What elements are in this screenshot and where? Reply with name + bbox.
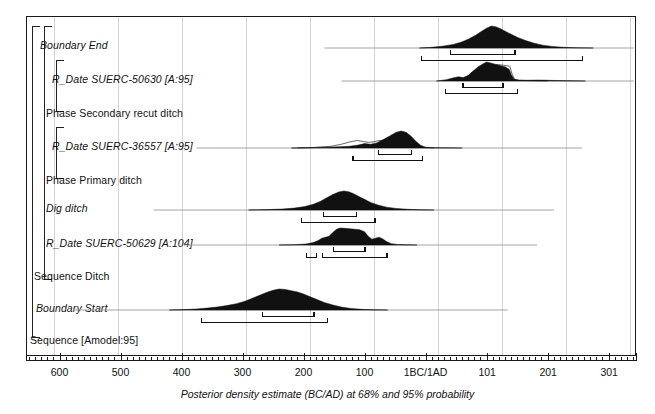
- axis-tick-label: 100: [356, 366, 374, 378]
- bracket-sequence-ditch: [44, 26, 45, 280]
- axis-tick-minor: [108, 357, 109, 361]
- axis-tick-minor: [456, 357, 457, 361]
- axis-tick-minor: [194, 357, 195, 361]
- axis-tick-label: 600: [51, 366, 69, 378]
- axis-tick-minor: [523, 357, 524, 361]
- axis-tick-label: 500: [112, 366, 130, 378]
- axis-tick-minor: [474, 357, 475, 361]
- row-label-sequence-amodel: Sequence [Amodel:95]: [30, 334, 138, 346]
- axis-tick-minor: [47, 357, 48, 361]
- axis-tick-minor: [188, 357, 189, 361]
- axis-tick-minor: [35, 357, 36, 361]
- axis-tick-major: [426, 353, 427, 361]
- axis-tick-minor: [627, 357, 628, 361]
- axis-tick-minor: [480, 357, 481, 361]
- axis-tick-minor: [438, 357, 439, 361]
- axis-tick-minor: [53, 357, 54, 361]
- axis-tick-minor: [90, 357, 91, 361]
- axis-tick-major: [60, 353, 61, 361]
- axis-tick-minor: [285, 357, 286, 361]
- axis-tick-minor: [413, 357, 414, 361]
- axis-tick-minor: [145, 357, 146, 361]
- axis-tick-major: [243, 353, 244, 361]
- axis-tick-minor: [615, 357, 616, 361]
- row-label-sequence-ditch: Sequence Ditch: [34, 270, 110, 282]
- range-bar: [301, 222, 376, 223]
- axis-tick-minor: [255, 357, 256, 361]
- axis-tick-minor: [212, 357, 213, 361]
- axis-tick-minor: [66, 357, 67, 361]
- axis-tick-minor: [389, 357, 390, 361]
- range-bar: [352, 160, 423, 161]
- row-label-r-date-suerc-36557: R_Date SUERC-36557 [A:95]: [52, 140, 193, 152]
- axis-tick-minor: [499, 357, 500, 361]
- axis-tick-minor: [334, 357, 335, 361]
- axis-tick-minor: [554, 357, 555, 361]
- axis-tick-minor: [163, 357, 164, 361]
- range-bar: [450, 54, 516, 55]
- axis-tick-minor: [395, 357, 396, 361]
- axis-tick-label: 301: [600, 366, 618, 378]
- axis-tick-minor: [291, 357, 292, 361]
- axis-tick-minor: [72, 357, 73, 361]
- axis-tick-minor: [352, 357, 353, 361]
- axis-tick-minor: [310, 357, 311, 361]
- axis-tick-minor: [432, 357, 433, 361]
- axis-tick-minor: [566, 357, 567, 361]
- axis-tick-minor: [157, 357, 158, 361]
- axis-tick-minor: [151, 357, 152, 361]
- axis-tick-minor: [41, 357, 42, 361]
- axis-tick-minor: [493, 357, 494, 361]
- axis-tick-label: 400: [173, 366, 191, 378]
- axis-tick-minor: [529, 357, 530, 361]
- axis-tick-minor: [328, 357, 329, 361]
- axis-tick-minor: [401, 357, 402, 361]
- axis-tick-minor: [383, 357, 384, 361]
- axis-tick-minor: [279, 357, 280, 361]
- row-label-phase-primary: Phase Primary ditch: [46, 174, 142, 186]
- axis-tick-major: [304, 353, 305, 361]
- axis-tick-major: [609, 353, 610, 361]
- axis-tick-minor: [114, 357, 115, 361]
- range-bar: [306, 257, 317, 258]
- oxcal-plot: Boundary End R_Date SUERC-50630 [A:95] P…: [0, 0, 655, 414]
- axis-tick-minor: [468, 357, 469, 361]
- axis-tick-minor: [267, 357, 268, 361]
- bracket-phase-secondary: [56, 60, 57, 112]
- plot-frame: [26, 16, 636, 356]
- axis-tick-minor: [261, 357, 262, 361]
- axis-tick-major: [487, 353, 488, 361]
- axis-tick-minor: [127, 357, 128, 361]
- axis-tick-minor: [578, 357, 579, 361]
- row-label-dig-ditch: Dig ditch: [46, 202, 88, 214]
- range-bar: [333, 251, 366, 252]
- axis-tick-minor: [102, 357, 103, 361]
- axis-tick-label: 200: [295, 366, 313, 378]
- axis-tick-minor: [230, 357, 231, 361]
- axis-tick-label: 300: [234, 366, 252, 378]
- axis-tick-minor: [462, 357, 463, 361]
- axis-tick-minor: [297, 357, 298, 361]
- range-bar: [322, 257, 388, 258]
- axis-tick-minor: [322, 357, 323, 361]
- axis-tick-major: [182, 353, 183, 361]
- axis-tick-minor: [358, 357, 359, 361]
- row-label-boundary-start: Boundary Start: [36, 302, 107, 314]
- axis-tick-label: 101: [478, 366, 496, 378]
- row-label-r-date-suerc-50629: R_Date SUERC-50629 [A:104]: [46, 237, 193, 249]
- axis-tick-minor: [505, 357, 506, 361]
- axis-tick-minor: [224, 357, 225, 361]
- axis-tick-minor: [511, 357, 512, 361]
- axis-tick-minor: [371, 357, 372, 361]
- axis-tick-minor: [602, 357, 603, 361]
- axis-tick-minor: [590, 357, 591, 361]
- axis-tick-minor: [249, 357, 250, 361]
- axis-tick-minor: [340, 357, 341, 361]
- axis-tick-minor: [584, 357, 585, 361]
- axis-tick-minor: [346, 357, 347, 361]
- axis-tick-minor: [621, 357, 622, 361]
- axis-tick-major: [365, 353, 366, 361]
- range-bar: [445, 93, 518, 94]
- x-axis-line: [26, 360, 636, 361]
- axis-tick-major: [121, 353, 122, 361]
